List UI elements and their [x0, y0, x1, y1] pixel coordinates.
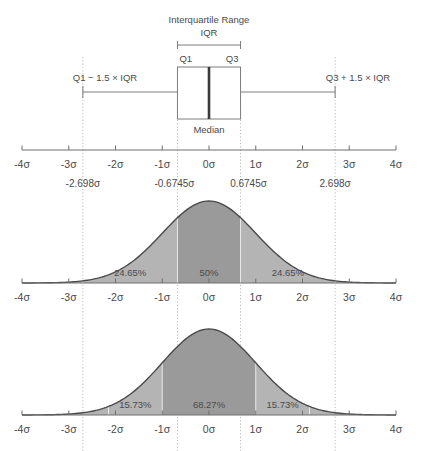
axis-tick-label: -3σ [61, 291, 77, 303]
region-percent-label: 50% [199, 267, 219, 278]
axis-tick-label: -3σ [61, 423, 77, 435]
axis-tick-label: -4σ [14, 423, 30, 435]
curve-panel-sigma: 15.73%68.27%15.73% [22, 329, 396, 415]
axis-boxplot: -4σ-3σ-2σ-1σ0σ1σ2σ3σ4σ [14, 146, 403, 171]
axis-tick-label: -3σ [61, 158, 77, 170]
region-percent-label: 24.65% [114, 267, 147, 278]
region-percent-label: 68.27% [193, 399, 226, 410]
lower-fence-value-label: -2.698σ [66, 178, 101, 189]
axis-tick-label: 3σ [343, 291, 356, 303]
axis-tick-label: -1σ [154, 291, 170, 303]
axis-tick-label: -2σ [108, 291, 124, 303]
axis-tick-label: -1σ [154, 158, 170, 170]
iqr-abbrev-label: IQR [201, 27, 218, 38]
axis-tick-label: -1σ [154, 423, 170, 435]
region-percent-label: 15.73% [267, 399, 300, 410]
region-percent-label: 15.73% [119, 399, 152, 410]
axis-tick-label: 2σ [296, 423, 309, 435]
region-percent-label: 24.65% [272, 267, 305, 278]
figure-canvas: Interquartile RangeIQRQ1Q3MedianQ1 − 1.5… [0, 0, 426, 451]
q1-value-label: -0.6745σ [154, 178, 195, 189]
upper-fence-value-label: 2.698σ [320, 178, 352, 189]
axis-tick-label: 1σ [250, 423, 263, 435]
axis-tick-label: -4σ [14, 291, 30, 303]
lower-fence-label: Q1 − 1.5 × IQR [73, 72, 138, 83]
axis-tick-label: 1σ [250, 158, 263, 170]
q3-value-label: 0.6745σ [230, 178, 268, 189]
curve-panel-quartile: 24.65%50%24.65% [22, 201, 396, 283]
axis-tick-label: -2σ [108, 158, 124, 170]
median-label: Median [193, 124, 224, 135]
axis-tick-label: 0σ [203, 291, 216, 303]
q3-label: Q3 [226, 53, 239, 64]
axis-tick-label: -4σ [14, 158, 30, 170]
axis-tick-label: 4σ [390, 158, 403, 170]
axis-tick-label: 3σ [343, 158, 356, 170]
axis-tick-label: 1σ [250, 291, 263, 303]
q1-label: Q1 [179, 53, 192, 64]
axis-tick-label: 4σ [390, 291, 403, 303]
axis-tick-label: 0σ [203, 158, 216, 170]
axis-tick-label: 0σ [203, 423, 216, 435]
axis-tick-label: 4σ [390, 423, 403, 435]
iqr-title-label: Interquartile Range [169, 14, 250, 25]
axis-tick-label: 3σ [343, 423, 356, 435]
upper-fence-label: Q3 + 1.5 × IQR [326, 72, 391, 83]
axis-tick-label: 2σ [296, 291, 309, 303]
axis-tick-label: -2σ [108, 423, 124, 435]
statistics-figure: Interquartile RangeIQRQ1Q3MedianQ1 − 1.5… [0, 0, 426, 451]
axis-tick-label: 2σ [296, 158, 309, 170]
